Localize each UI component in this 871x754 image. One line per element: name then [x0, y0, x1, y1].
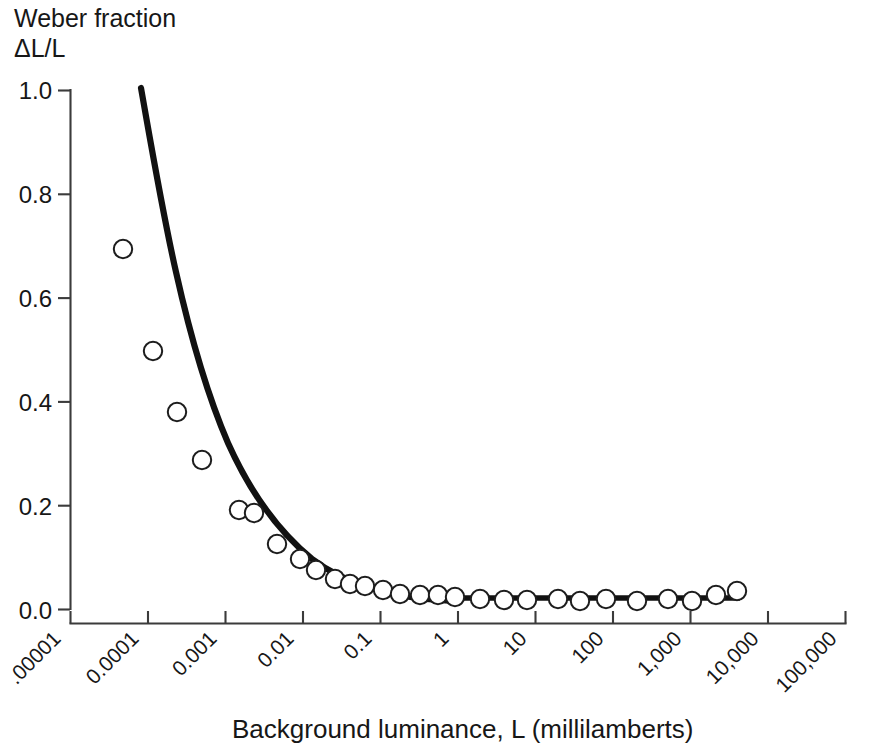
data-point	[707, 586, 725, 604]
x-tick-label: 0.001	[167, 627, 220, 680]
data-point	[518, 591, 536, 609]
data-point	[495, 591, 513, 609]
data-point	[411, 586, 429, 604]
y-tick-label: 1.0	[19, 77, 52, 104]
x-tick-labels: .00001 0.0001 0.001 0.01 0.1 1 10 100 1,…	[3, 627, 841, 697]
data-point	[728, 582, 746, 600]
data-point	[471, 590, 489, 608]
data-point	[429, 586, 447, 604]
x-tick-label: 10	[498, 627, 531, 660]
y-tick-labels: 1.0 0.8 0.6 0.4 0.2 0.0	[19, 77, 52, 624]
data-point	[549, 590, 567, 608]
x-tick-label: .00001	[3, 627, 65, 689]
data-point	[597, 590, 615, 608]
data-point	[193, 451, 211, 469]
y-tick-label: 0.0	[19, 597, 52, 624]
data-point	[659, 590, 677, 608]
data-point	[291, 550, 309, 568]
data-point	[245, 504, 263, 522]
x-tick-label: 1	[428, 627, 453, 652]
weber-fraction-figure: Weber fraction ΔL/L 1.0 0.8 0.6 0.4 0.2 …	[0, 0, 871, 754]
data-point	[571, 592, 589, 610]
x-tick-label: 10,000	[701, 627, 763, 689]
data-point	[683, 592, 701, 610]
data-point	[144, 342, 162, 360]
x-axis-title: Background luminance, L (millilamberts)	[232, 714, 693, 745]
y-tick-label: 0.6	[19, 285, 52, 312]
y-tick-label: 0.4	[19, 389, 52, 416]
x-tick-label: 1,000	[632, 627, 685, 680]
data-point	[268, 535, 286, 553]
y-tick-marks	[58, 91, 70, 610]
x-tick-label: 100,000	[771, 627, 841, 697]
y-tick-label: 0.8	[19, 181, 52, 208]
data-point	[168, 403, 186, 421]
x-tick-label: 0.0001	[81, 627, 143, 689]
x-tick-label: 100	[567, 627, 608, 668]
x-tick-marks	[71, 611, 846, 624]
x-tick-label: 0.1	[339, 627, 376, 664]
data-point	[391, 585, 409, 603]
y-tick-label: 0.2	[19, 493, 52, 520]
data-point	[114, 240, 132, 258]
x-tick-label: 0.01	[253, 627, 298, 672]
data-point	[628, 592, 646, 610]
fit-weber-curve	[141, 88, 452, 601]
data-point	[374, 581, 392, 599]
chart-plot-area: 1.0 0.8 0.6 0.4 0.2 0.0 .00001 0.0001 0.…	[0, 0, 871, 754]
data-point-group	[114, 240, 746, 610]
data-point	[356, 577, 374, 595]
data-point	[446, 588, 464, 606]
data-point	[307, 561, 325, 579]
